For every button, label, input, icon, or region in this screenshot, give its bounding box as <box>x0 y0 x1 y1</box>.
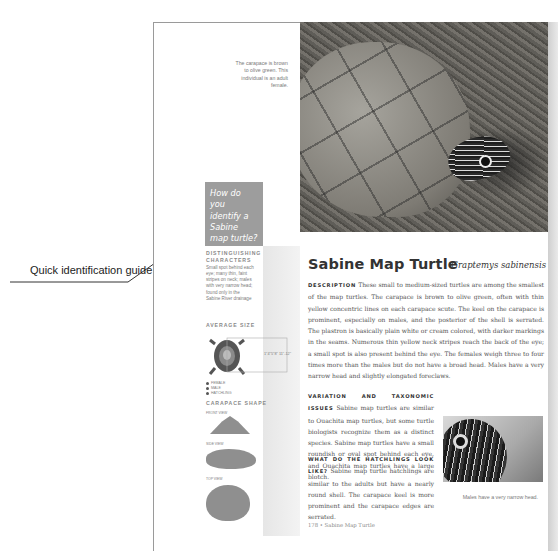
description-text: These small to medium-sized turtles are … <box>308 281 544 379</box>
male-photo-caption: Males have a very narrow head. <box>450 493 538 501</box>
distinguishing-text: Small spot behind each eye; many thin, f… <box>206 265 254 303</box>
side-view-label: SIDE VIEW <box>206 441 296 447</box>
top-view-label: TOP VIEW <box>206 476 296 482</box>
description-lead: Description <box>308 282 356 288</box>
description-section: Description These small to medium-sized … <box>308 279 544 382</box>
photo-caption: The carapace is brown to olive green. Th… <box>230 60 288 89</box>
turtle-photo <box>300 22 548 232</box>
page-edge-shadow <box>548 22 558 551</box>
top-view-shape <box>206 485 250 521</box>
shape-heading: Carapace shape <box>206 400 296 407</box>
annotation-label: Quick identification guide <box>30 264 152 276</box>
turtle-shell <box>300 42 470 217</box>
male-turtle-head <box>443 416 520 482</box>
distinguishing-characters: Distinguishing characters Small spot beh… <box>206 250 296 302</box>
size-heading: Average size <box>206 322 296 329</box>
legend-hatchling: HATCHLING <box>206 391 296 396</box>
distinguishing-heading: Distinguishing characters <box>206 250 296 265</box>
male-turtle-eye <box>453 434 468 449</box>
front-view-label: FRONT VIEW <box>206 410 296 416</box>
side-view-shape <box>206 449 256 469</box>
carapace-shape: Carapace shape <box>206 400 296 407</box>
identification-callout: How do you identify a Sabine map turtle? <box>205 182 263 246</box>
turtle-eye <box>479 155 492 168</box>
scientific-name: Graptemys sabinensis <box>451 260 546 270</box>
male-head-photo <box>443 416 543 482</box>
page-footer: 178 • Sabine Map Turtle <box>308 522 375 528</box>
article-title: Sabine Map Turtle <box>308 256 458 272</box>
hatchlings-text: Sabine map turtle hatchlings are similar… <box>308 467 434 520</box>
size-legend: FEMALE MALE HATCHLING <box>206 381 296 396</box>
average-size: Average size <box>206 322 296 329</box>
hatchlings-section: What do the hatchlings look like? Sabine… <box>308 453 434 523</box>
